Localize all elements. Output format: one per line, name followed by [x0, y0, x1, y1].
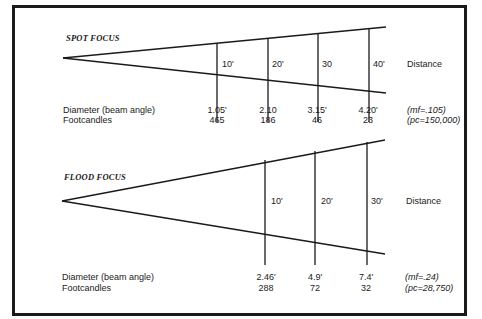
flood-mf: (mf=.24)	[405, 272, 439, 282]
spot-footcandles-label: Footcandles	[63, 115, 112, 125]
flood-diameter-3: 7.4'	[346, 272, 386, 282]
spot-distance-label: Distance	[407, 59, 442, 69]
spot-diameter-4: 4.20'	[348, 105, 388, 115]
spot-diameter-1: 1.05'	[197, 105, 237, 115]
spot-footcandles-1: 465	[197, 115, 237, 125]
spot-diameter-2: 2.10	[248, 105, 288, 115]
flood-footcandles-3: 32	[346, 283, 386, 293]
spot-footcandles-3: 46	[297, 115, 337, 125]
flood-diameter-2: 4.9'	[295, 272, 335, 282]
spot-footcandles-4: 23	[348, 115, 388, 125]
spot-footcandles-2: 186	[248, 115, 288, 125]
spot-diameter-3: 3.15'	[297, 105, 337, 115]
spot-focus-title: SPOT FOCUS	[66, 33, 120, 43]
spot-distance-40: 40'	[373, 59, 385, 69]
flood-pc: (pc=28,750)	[405, 283, 453, 293]
flood-distance-label: Distance	[406, 196, 441, 206]
spot-distance-10: 10'	[222, 59, 234, 69]
spot-pc: (pc=150,000)	[407, 115, 460, 125]
flood-diameter-label: Diameter (beam angle)	[62, 272, 154, 282]
spot-distance-30: 30	[322, 59, 332, 69]
spot-mf: (mf=.105)	[407, 105, 446, 115]
spot-diameter-label: Diameter (beam angle)	[63, 105, 155, 115]
flood-distance-30: 30'	[371, 196, 383, 206]
flood-footcandles-2: 72	[295, 283, 335, 293]
flood-focus-title: FLOOD FOCUS	[64, 172, 126, 182]
flood-beam	[62, 140, 385, 265]
flood-footcandles-1: 288	[246, 283, 286, 293]
flood-distance-10: 10'	[271, 196, 283, 206]
flood-footcandles-label: Footcandles	[62, 283, 111, 293]
flood-distance-20: 20'	[321, 196, 333, 206]
flood-diameter-1: 2.46'	[246, 272, 286, 282]
spot-distance-20: 20'	[272, 59, 284, 69]
